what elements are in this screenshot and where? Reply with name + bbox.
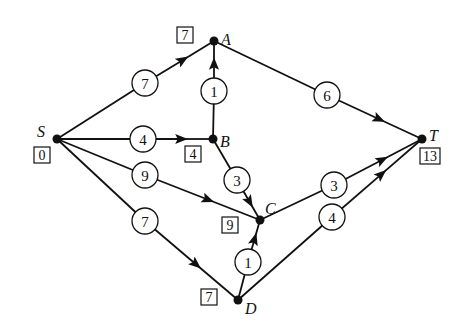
node-dot	[418, 135, 427, 144]
distance-value: 4	[190, 147, 197, 162]
edge-weight: 9	[141, 168, 149, 184]
node-label: B	[220, 133, 230, 150]
edge-weight: 1	[210, 84, 218, 100]
edge-weight: 4	[139, 132, 147, 148]
distance-value: 0	[39, 148, 46, 163]
edges-layer: 7497131634	[57, 41, 422, 300]
distance-value: 7	[206, 290, 213, 305]
edge-weight: 6	[323, 88, 331, 104]
distance-value: 9	[227, 218, 234, 233]
node-label: C	[265, 200, 276, 217]
node-dot	[210, 37, 219, 46]
edge-d-t: 4	[238, 139, 422, 300]
edge-weight: 1	[244, 255, 252, 271]
edge-weight: 7	[141, 76, 149, 92]
edge-b-a: 1	[201, 41, 227, 139]
node-dot	[53, 135, 62, 144]
node-a: A7	[177, 27, 231, 48]
edge-weight: 4	[328, 210, 336, 226]
shortest-path-graph: 7497131634 S0A7B4C9D7T13	[0, 0, 468, 332]
edge-b-c: 3	[213, 139, 260, 220]
edge-a-t: 6	[214, 41, 422, 139]
node-t: T13	[418, 127, 441, 164]
edge-weight: 7	[141, 214, 149, 230]
edge-s-a: 7	[57, 41, 214, 139]
edge-d-c: 1	[235, 220, 261, 300]
node-label: D	[244, 300, 257, 317]
node-label: A	[220, 31, 231, 48]
distance-value: 7	[182, 28, 189, 43]
node-dot	[256, 216, 265, 225]
edge-weight: 3	[330, 178, 338, 194]
node-label: T	[429, 127, 439, 144]
node-dot	[234, 296, 243, 305]
node-s: S0	[34, 123, 62, 163]
edge-weight: 3	[233, 173, 241, 189]
distance-value: 13	[423, 149, 437, 164]
node-dot	[209, 135, 218, 144]
node-label: S	[37, 123, 45, 140]
